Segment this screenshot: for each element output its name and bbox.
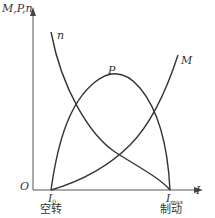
- y-axis-label: M,P,n: [2, 3, 33, 14]
- diagram-canvas: [0, 0, 215, 218]
- motor-characteristic-diagram: M,P,n n P M O I I0 Imax 空转 制动: [0, 0, 215, 218]
- curve-n-label: n: [57, 30, 64, 41]
- curve-p-label: P: [108, 65, 115, 76]
- origin-label: O: [20, 181, 29, 192]
- curve-m-label: M: [181, 55, 192, 66]
- idle-label: 空转: [40, 204, 62, 215]
- x-axis-label: I: [196, 185, 200, 196]
- stall-label: 制动: [160, 204, 182, 215]
- curve-n: [51, 32, 170, 190]
